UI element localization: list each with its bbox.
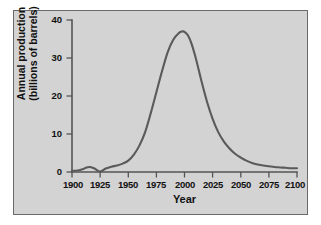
x-tick-label: 1925 xyxy=(90,180,110,190)
y-tick-label: 0 xyxy=(40,167,62,177)
y-tick-label: 30 xyxy=(40,53,62,63)
y-tick-label: 10 xyxy=(40,129,62,139)
x-tick-label: 1975 xyxy=(146,180,166,190)
x-tick-label: 1950 xyxy=(118,180,138,190)
y-tick-label: 20 xyxy=(40,91,62,101)
chart-figure: 40 30 20 10 0 1900 1925 1950 1975 2000 2… xyxy=(0,0,321,225)
x-tick-label: 2050 xyxy=(231,180,251,190)
x-tick-label: 2100 xyxy=(285,180,305,190)
x-tick-label: 2000 xyxy=(175,180,195,190)
x-tick-label: 2075 xyxy=(259,180,279,190)
x-axis-title: Year xyxy=(72,193,297,205)
y-axis-title: Annual production (billions of barrels) xyxy=(16,0,39,134)
y-axis-title-line2: (billions of barrels) xyxy=(27,0,39,134)
x-tick-label: 2025 xyxy=(203,180,223,190)
y-tick-label: 40 xyxy=(40,15,62,25)
x-tick-label: 1900 xyxy=(63,180,83,190)
y-axis-title-line1: Annual production xyxy=(16,0,28,134)
